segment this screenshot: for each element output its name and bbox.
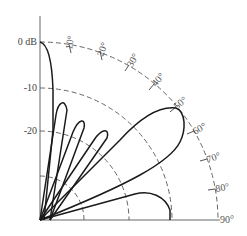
label-0db: 0 dB [18,36,38,47]
angle-90: 90° [220,214,234,225]
angle-70: 70° [205,150,222,165]
pattern-curves [40,42,184,220]
angle-10: 10° [63,35,76,51]
angle-20: 20° [95,41,110,58]
label-minus10: -10 [24,82,37,93]
polar-pattern-diagram: 0 dB -10 -20 10° 20° 30° 40° 50° 60° 70°… [0,0,247,236]
angle-80: 80° [214,181,230,194]
angle-40: 40° [149,70,166,88]
angle-30: 30° [124,51,141,69]
angle-60: 60° [191,120,209,137]
label-minus20: -20 [24,125,37,136]
